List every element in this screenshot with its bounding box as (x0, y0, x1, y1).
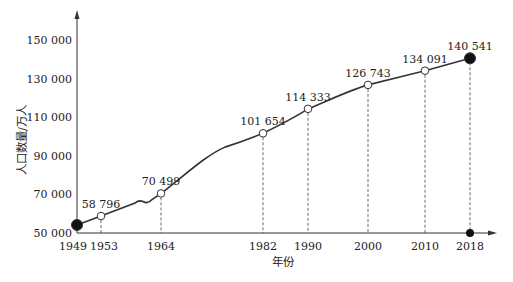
y-tick-label: 50 000 (34, 227, 73, 240)
data-markers (72, 53, 476, 237)
hollow-point-marker (304, 105, 312, 113)
y-tick-label: 130 000 (27, 73, 73, 86)
data-label: 70 499 (142, 175, 181, 188)
x-axis-end-marker (466, 229, 474, 237)
data-labels: 58 79670 499101 654114 333126 743134 091… (82, 40, 493, 211)
data-label: 114 333 (285, 91, 331, 104)
hollow-point-marker (364, 81, 372, 89)
y-tick-label: 110 000 (27, 111, 73, 124)
x-tick-labels: 19491953196419821990200020102018 (59, 240, 484, 253)
data-label: 134 091 (402, 53, 448, 66)
x-tick-label: 1964 (147, 240, 175, 253)
y-tick-label: 70 000 (34, 188, 73, 201)
filled-point-marker (465, 53, 476, 64)
x-tick-label: 1982 (249, 240, 277, 253)
data-label: 58 796 (82, 198, 121, 211)
hollow-point-marker (157, 190, 165, 198)
y-tick-label: 90 000 (34, 150, 73, 163)
data-label: 126 743 (345, 67, 391, 80)
data-label: 101 654 (240, 115, 286, 128)
population-curve (77, 58, 470, 225)
x-tick-label: 2000 (354, 240, 382, 253)
x-axis-title: 年份 (272, 255, 295, 269)
x-tick-label: 1953 (90, 240, 118, 253)
x-tick-label: 2010 (411, 240, 439, 253)
data-label: 140 541 (447, 40, 493, 53)
y-axis-arrow-icon (75, 10, 80, 19)
population-line-chart: 50 00070 00090 000110 000130 000150 000 … (0, 0, 513, 282)
hollow-point-marker (97, 212, 105, 220)
drop-lines (101, 62, 470, 233)
hollow-point-marker (259, 130, 267, 138)
x-tick-label: 1949 (59, 240, 87, 253)
y-tick-label: 150 000 (27, 34, 73, 47)
x-axis-arrow-icon (488, 231, 497, 236)
x-tick-label: 2018 (456, 240, 484, 253)
hollow-point-marker (421, 67, 429, 75)
y-axis-title: 人口数量/万人 (15, 104, 29, 175)
filled-point-marker (72, 219, 83, 230)
x-tick-label: 1990 (294, 240, 322, 253)
y-tick-labels: 50 00070 00090 000110 000130 000150 000 (27, 34, 73, 240)
